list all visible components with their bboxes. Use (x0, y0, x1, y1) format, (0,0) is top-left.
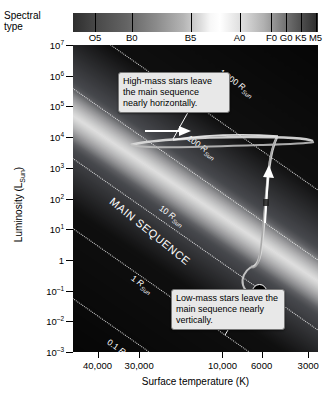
y-axis-title-end: ) (13, 167, 24, 170)
y-tick-mark (66, 321, 73, 322)
spectral-type-axis-label: Spectral type (4, 10, 66, 32)
x-tick-mark (262, 352, 263, 358)
spectral-tick-a0 (240, 13, 241, 32)
y-tick-label: 105 (50, 100, 64, 112)
x-axis-title: Surface temperature (K) (73, 376, 318, 387)
spectral-class-label-g0: G0 (280, 32, 293, 43)
x-tick-mark (308, 352, 309, 358)
x-tick-label: 3000 (298, 360, 319, 371)
y-tick-mark (66, 291, 73, 292)
spectral-tick-f0 (271, 13, 272, 32)
y-tick-mark (66, 260, 73, 261)
y-tick-mark (66, 199, 73, 200)
spectral-class-label-b5: B5 (185, 32, 197, 43)
spectral-tick-k5 (301, 13, 302, 32)
y-axis-title-main: Luminosity (L (13, 183, 24, 242)
spectral-label-line1: Spectral (4, 10, 66, 21)
y-tick-mark (66, 137, 73, 138)
spectral-class-label-f0: F0 (266, 32, 277, 43)
y-tick-mark (66, 76, 73, 77)
y-tick-mark (66, 106, 73, 107)
y-axis-title-sub: Sun (19, 170, 26, 182)
spectral-type-colorbar (73, 13, 318, 32)
x-tick-label: 10,000 (208, 360, 237, 371)
low-mass-arrow (263, 165, 274, 223)
spectral-class-label-a0: A0 (234, 32, 246, 43)
x-tick-label: 40,000 (83, 360, 112, 371)
y-tick-mark (66, 352, 73, 353)
spectral-class-label-m5: M5 (309, 32, 322, 43)
y-axis-title: Luminosity (LSun) (13, 140, 26, 270)
x-tick-mark (222, 352, 223, 358)
x-tick-mark (139, 352, 140, 358)
callout-high-mass: High-mass stars leave the main sequence … (118, 72, 230, 113)
high-mass-arrow (145, 126, 191, 136)
y-tick-mark (66, 229, 73, 230)
x-tick-label: 6000 (251, 360, 272, 371)
y-tick-label: 103 (50, 162, 64, 174)
x-tick-mark (98, 352, 99, 358)
y-tick-label: 101 (50, 223, 64, 235)
y-tick-label: 107 (50, 39, 64, 51)
spectral-tick-o5 (95, 13, 96, 32)
y-tick-label: 102 (50, 192, 64, 204)
spectral-tick-b5 (191, 13, 192, 32)
y-tick-label: 106 (50, 70, 64, 82)
y-tick-label: 104 (50, 131, 64, 143)
y-tick-label: 10–1 (46, 285, 64, 297)
callout-low-mass: Low-mass stars leave the main sequence n… (171, 289, 285, 330)
x-tick-label: 30,000 (125, 360, 154, 371)
y-tick-label: 10–2 (46, 315, 64, 327)
spectral-tick-m5 (316, 13, 317, 32)
y-tick-mark (66, 168, 73, 169)
y-tick-mark (66, 45, 73, 46)
y-tick-label: 10–3 (46, 346, 64, 358)
spectral-class-label-k5: K5 (295, 32, 307, 43)
y-tick-label: 1 (59, 254, 64, 265)
spectral-class-label-b0: B0 (126, 32, 138, 43)
spectral-class-label-o5: O5 (89, 32, 102, 43)
spectral-tick-g0 (286, 13, 287, 32)
spectral-tick-b0 (132, 13, 133, 32)
spectral-label-line2: type (4, 21, 66, 32)
